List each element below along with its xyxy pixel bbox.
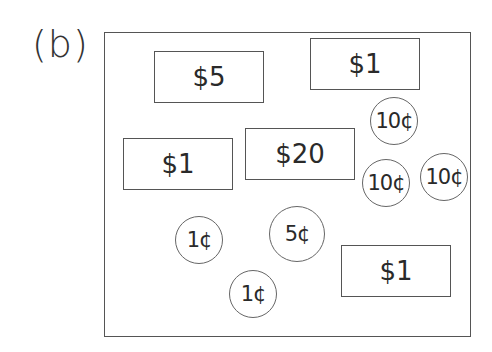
bill-value: $5 — [192, 62, 225, 92]
coin-value: 5¢ — [285, 222, 310, 246]
coin-penny-bottom: 1¢ — [229, 270, 277, 318]
coin-dime-top: 10¢ — [370, 97, 418, 145]
figure-label: (b) — [32, 22, 89, 66]
bill-1-dollar-left: $1 — [123, 138, 233, 190]
bill-5-dollar: $5 — [154, 51, 264, 103]
coin-dime-right: 10¢ — [420, 153, 468, 201]
coin-value: 1¢ — [241, 282, 266, 306]
coin-value: 10¢ — [367, 171, 404, 195]
coin-nickel: 5¢ — [269, 206, 325, 262]
coin-penny-left: 1¢ — [175, 216, 223, 264]
bill-20-dollar: $20 — [245, 128, 355, 180]
bill-1-dollar-top: $1 — [310, 38, 420, 90]
bill-value: $20 — [275, 139, 325, 169]
coin-value: 10¢ — [425, 165, 462, 189]
bill-value: $1 — [379, 256, 412, 286]
coin-value: 1¢ — [187, 228, 212, 252]
bill-value: $1 — [161, 149, 194, 179]
coin-dime-middle: 10¢ — [362, 159, 410, 207]
bill-value: $1 — [348, 49, 381, 79]
bill-1-dollar-bottom: $1 — [341, 245, 451, 297]
coin-value: 10¢ — [375, 109, 412, 133]
